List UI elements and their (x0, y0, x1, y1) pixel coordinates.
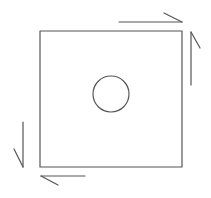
arrow-right-head (191, 32, 200, 48)
arrow-bottom-left (41, 176, 85, 185)
arrow-top-head (164, 13, 182, 22)
arrow-right-up (191, 32, 200, 85)
arrow-top-right (119, 13, 182, 22)
arrow-left-head (14, 149, 23, 167)
arrow-left-down (14, 122, 23, 167)
square-plate (40, 31, 182, 167)
arrow-bottom-head (41, 176, 58, 185)
diagram-canvas (0, 0, 211, 198)
central-hole (93, 76, 129, 112)
